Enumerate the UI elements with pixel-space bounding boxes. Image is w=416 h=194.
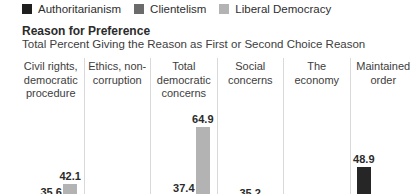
bar-value-label: 42.1 <box>45 170 95 182</box>
bar-value-label: 48.9 <box>339 153 389 165</box>
chart-figure: Authoritarianism Clientelism Liberal Dem… <box>0 0 416 194</box>
bar-liberal-democracy-2 <box>196 127 210 194</box>
bar-liberal-democracy-0 <box>63 184 77 194</box>
bar-value-label: 64.9 <box>178 113 228 125</box>
bar-authoritarianism-5 <box>357 167 371 194</box>
bar-value-label: 35.2 <box>225 187 275 194</box>
plot-area: 48.935.637.435.242.164.9 <box>0 0 416 194</box>
